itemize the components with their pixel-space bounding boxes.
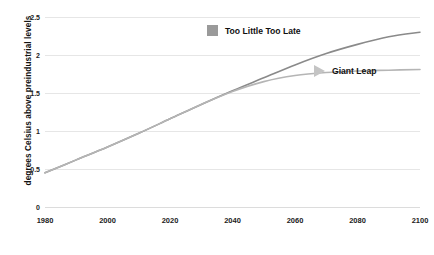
legend-item-too-little-too-late: Too Little Too Late [207, 25, 301, 36]
series-line-giant-leap [45, 69, 420, 172]
x-axis-tick-label: 2040 [224, 216, 241, 225]
series-curves [45, 17, 420, 207]
gridline [45, 207, 420, 208]
y-axis-tick-label: 2 [36, 52, 40, 59]
triangle-marker-icon [314, 65, 325, 77]
x-axis-tick-label: 2020 [162, 216, 179, 225]
series-line-too-little-too-late [45, 32, 420, 173]
plot-area: 00.511.522.5 198020002020204020602080210… [45, 17, 420, 207]
y-axis-tick-label: 2.5 [30, 14, 40, 21]
x-axis-tick-label: 2000 [99, 216, 116, 225]
legend-label-too-little-too-late: Too Little Too Late [225, 26, 301, 36]
y-axis-tick-label: 0.5 [30, 166, 40, 173]
square-marker-icon [207, 25, 218, 36]
x-axis-tick-label: 1980 [37, 216, 54, 225]
legend-item-giant-leap: Giant Leap [314, 65, 376, 77]
legend-label-giant-leap: Giant Leap [332, 66, 376, 76]
x-axis-tick-label: 2060 [287, 216, 304, 225]
y-axis-tick-label: 1.5 [30, 90, 40, 97]
climate-scenario-line-chart: degrees Celsius above preindustrial leve… [0, 0, 434, 255]
y-axis-tick-label: 1 [36, 128, 40, 135]
x-axis-tick-label: 2080 [349, 216, 366, 225]
x-axis-tick-label: 2100 [412, 216, 429, 225]
y-axis-tick-label: 0 [36, 204, 40, 211]
